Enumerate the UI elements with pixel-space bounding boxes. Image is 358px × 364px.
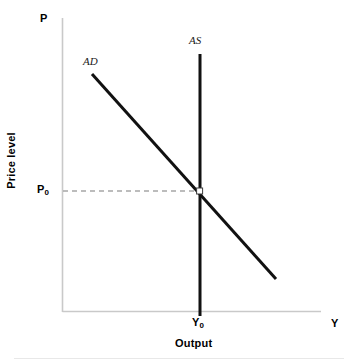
chart-canvas [0,0,358,364]
y-axis-tick-p0: P0 [37,184,49,195]
y-axis-symbol-label: P [40,13,48,24]
tick-p0-base: P [37,183,45,195]
aggregate-demand-supply-chart: P Y AD AS P0 Y0 Output Price level [0,0,358,364]
tick-p0-subscript: 0 [45,188,50,197]
x-axis-title: Output [175,338,212,349]
tick-y0-base: Y [192,316,200,328]
equilibrium-point-marker [197,188,203,194]
chart-background [0,0,358,364]
x-axis-tick-y0: Y0 [192,317,204,328]
y-axis-title: Price level [6,126,17,196]
ad-curve-label: AD [83,56,98,67]
as-curve-label: AS [189,35,201,46]
tick-y0-subscript: 0 [200,321,205,330]
x-axis-symbol-label: Y [331,318,339,329]
